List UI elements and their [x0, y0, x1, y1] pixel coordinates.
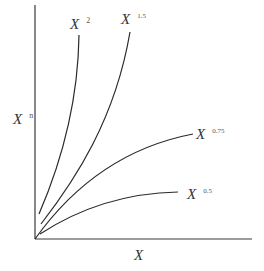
label-x-squared: X 2 [69, 15, 90, 32]
x-axis-label: X [133, 247, 144, 263]
label-x-0-5: X 0.5 [186, 185, 212, 202]
y-axis-label: X n [12, 110, 33, 127]
curve-x-1-5 [41, 32, 130, 224]
label-x-1-5: X 1.5 [120, 10, 146, 27]
curve-x-squared [39, 35, 79, 214]
label-x-0-75: X 0.75 [195, 125, 225, 142]
power-curves-diagram: X 2 X 1.5 X 0.75 X 0.5 X n X [0, 0, 264, 271]
curve-x-0-5 [40, 192, 178, 234]
